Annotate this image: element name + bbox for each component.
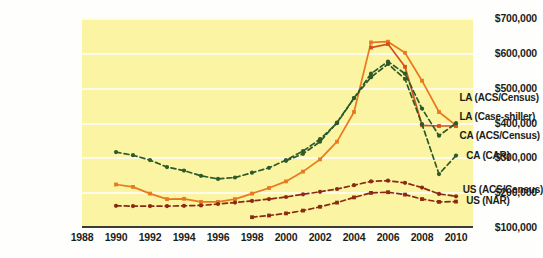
legend-label-ca-car: CA (CAR) — [466, 150, 510, 161]
x-axis-line — [82, 226, 473, 228]
gridline — [82, 192, 473, 194]
legend-label-la-acs-census: LA (ACS/Census) — [459, 92, 538, 103]
gridline — [82, 157, 473, 159]
plot-area — [82, 18, 473, 227]
legend-label-ca-acs-census: CA (ACS/Census) — [459, 130, 540, 141]
gridline — [82, 53, 473, 55]
gridline — [82, 18, 473, 20]
y-axis-tick-label: $700,000 — [459, 13, 537, 23]
legend-label-la-case-shiller: LA (Case-shiller) — [459, 111, 535, 122]
legend-label-us-acs-census: US (ACS/Census) — [463, 184, 543, 195]
legend-label-us-nar: US (NAR) — [466, 195, 509, 206]
gridline — [82, 123, 473, 125]
x-axis-tick-label: 2010 — [433, 231, 479, 243]
y-axis-tick-label: $600,000 — [459, 48, 537, 58]
gridline — [82, 88, 473, 90]
